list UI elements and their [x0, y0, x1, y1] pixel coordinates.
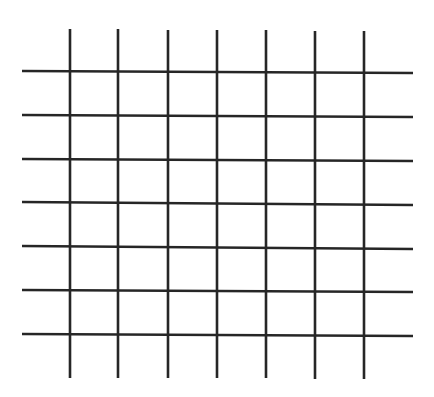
grid-diagram: [0, 0, 434, 397]
